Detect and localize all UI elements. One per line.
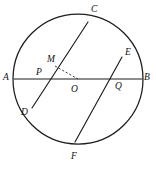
point-label-b: B <box>144 73 150 83</box>
point-label-d: D <box>21 108 28 118</box>
point-label-e: E <box>125 48 131 58</box>
point-label-f: F <box>71 152 77 162</box>
segment-chord-ef <box>75 57 122 142</box>
point-label-o: O <box>71 85 78 95</box>
point-label-q: Q <box>115 82 122 92</box>
point-label-c: C <box>91 5 97 15</box>
point-label-a: A <box>3 73 9 83</box>
segment-chord-cd <box>32 22 88 108</box>
point-label-m: M <box>47 55 55 65</box>
geometry-diagram: A B C D E F M O P Q <box>0 0 156 169</box>
geometry-canvas <box>0 0 156 169</box>
point-label-p: P <box>36 68 42 78</box>
